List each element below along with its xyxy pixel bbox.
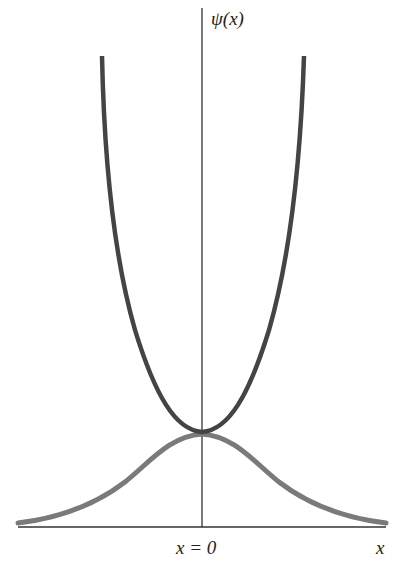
x-axis-label: x bbox=[376, 538, 384, 557]
wavefunction-diagram bbox=[0, 0, 412, 575]
origin-label: x = 0 bbox=[176, 538, 216, 557]
upper-diverging-curve bbox=[102, 56, 304, 432]
y-axis-label: ψ(x) bbox=[211, 9, 244, 28]
